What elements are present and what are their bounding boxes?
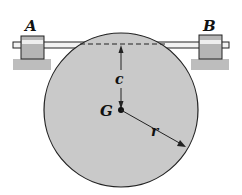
base-right [191, 59, 229, 70]
bearing-a [21, 36, 44, 59]
label-b: B [202, 17, 216, 35]
pendulum-disk-diagram: A B c G r [0, 0, 242, 195]
bearing-b [199, 35, 222, 59]
label-c: c [115, 71, 124, 87]
label-g: G [100, 102, 113, 120]
base-left [13, 59, 51, 70]
label-a: A [23, 17, 37, 35]
